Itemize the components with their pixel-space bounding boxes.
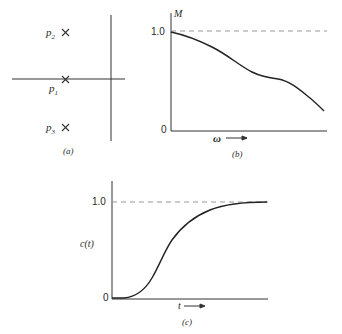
caption-c: (c) xyxy=(182,318,192,327)
pole-label-p3: p3 xyxy=(46,122,55,136)
xlabel-c: t xyxy=(178,301,181,311)
caption-a: (a) xyxy=(63,147,74,156)
panel-b-axes xyxy=(171,13,327,140)
ylabel-b: M xyxy=(174,9,182,19)
ytick-b-1: 1.0 xyxy=(151,27,165,37)
xlabel-b: ω xyxy=(213,133,221,144)
pole-label-p2: p2 xyxy=(46,27,55,41)
figure-graphics xyxy=(0,0,342,334)
panel-c-axes xyxy=(112,181,268,308)
ytick-c-1: 1.0 xyxy=(92,197,106,207)
caption-b: (b) xyxy=(232,150,243,159)
magnitude-curve xyxy=(171,32,324,111)
panel-a-axes xyxy=(12,15,125,141)
pole-label-p1: p1 xyxy=(49,83,58,97)
step-response-curve xyxy=(112,202,267,298)
ytick-c-0: 0 xyxy=(103,293,109,303)
pole-markers xyxy=(62,29,69,131)
ylabel-c: c(t) xyxy=(80,239,94,249)
ytick-b-0: 0 xyxy=(161,125,167,135)
